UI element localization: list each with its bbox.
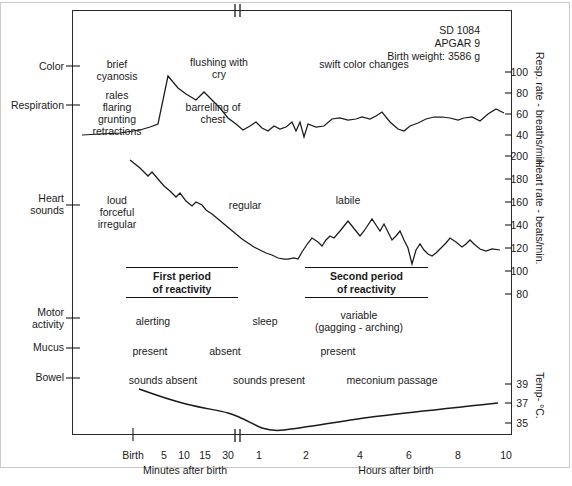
temperature-curve: [139, 389, 498, 430]
row-tick-marks: [66, 66, 80, 378]
figure-page: SD 1084 APGAR 9 Birth weight: 3586 g Col…: [0, 0, 572, 486]
axis-break-marker: [235, 4, 240, 442]
right-axis-ticks: [505, 72, 512, 423]
respiration-rate-curve: [82, 76, 504, 137]
chart-vector-layer: [0, 0, 572, 486]
heart-rate-curve: [130, 160, 500, 264]
